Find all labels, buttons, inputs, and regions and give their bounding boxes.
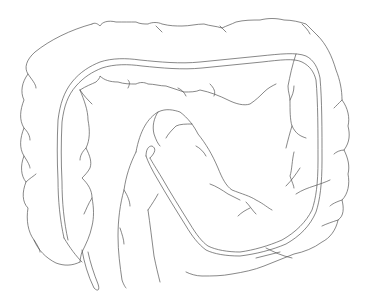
descending-colon [186, 36, 349, 276]
inner-tube [57, 54, 322, 262]
colon-drawing [0, 0, 374, 305]
transverse-colon [80, 19, 318, 105]
colon-illustration: colon line drawing [0, 0, 374, 305]
ascending-colon [21, 24, 99, 290]
sigmoid-colon [118, 110, 272, 288]
